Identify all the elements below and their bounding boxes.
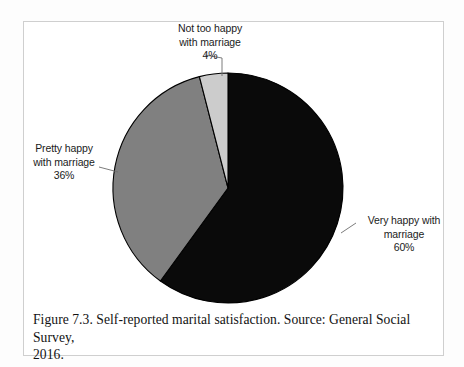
pie-label-not-too-happy: Not too happy with marriage 4% — [150, 22, 270, 63]
figure-caption-line2: 2016. — [33, 346, 437, 364]
pie-label-very-happy-line2: marriage — [352, 228, 456, 242]
pie-label-pretty-happy-line1: Pretty happy — [14, 142, 114, 156]
pie-label-very-happy: Very happy with marriage 60% — [352, 214, 456, 255]
figure-caption-line1: Figure 7.3. Self-reported marital satisf… — [33, 311, 437, 346]
pie-label-pretty-happy: Pretty happy with marriage 36% — [14, 142, 114, 183]
pie-label-pretty-happy-value: 36% — [14, 169, 114, 183]
pie-label-not-too-happy-value: 4% — [150, 49, 270, 63]
pie-label-not-too-happy-line1: Not too happy — [150, 22, 270, 36]
pie-label-very-happy-line1: Very happy with — [352, 214, 456, 228]
pie-label-very-happy-value: 60% — [352, 241, 456, 255]
pie-label-pretty-happy-line2: with marriage — [14, 156, 114, 170]
figure-caption: Figure 7.3. Self-reported marital satisf… — [33, 311, 437, 364]
pie-label-not-too-happy-line2: with marriage — [150, 36, 270, 50]
figure-root: Not too happy with marriage 4% Pretty ha… — [0, 0, 464, 367]
